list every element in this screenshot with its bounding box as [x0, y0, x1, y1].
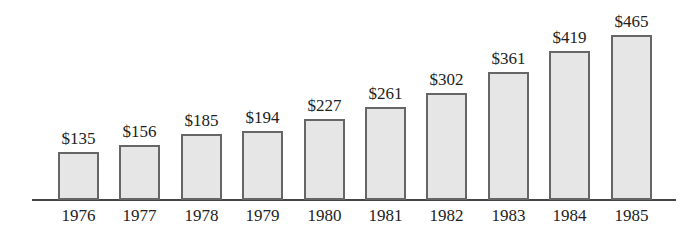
x-tick-label: 1983: [474, 206, 544, 226]
value-label: $156: [105, 122, 175, 142]
bar-1977: [119, 145, 160, 200]
value-label: $194: [228, 108, 298, 128]
x-tick-label: 1985: [597, 206, 667, 226]
x-tick-label: 1978: [167, 206, 237, 226]
bar-1979: [242, 131, 283, 200]
bar-1985: [611, 35, 652, 200]
x-tick-label: 1979: [228, 206, 298, 226]
value-label: $185: [167, 111, 237, 131]
x-tick-label: 1980: [290, 206, 360, 226]
x-tick-label: 1977: [105, 206, 175, 226]
x-tick-label: 1981: [351, 206, 421, 226]
x-tick-label: 1982: [412, 206, 482, 226]
bar-1976: [58, 152, 99, 200]
value-label: $465: [597, 12, 667, 32]
bar-chart: $1351976$1561977$1851978$1941979$2271980…: [0, 0, 696, 239]
bar-1980: [304, 119, 345, 200]
value-label: $227: [290, 96, 360, 116]
value-label: $261: [351, 84, 421, 104]
value-label: $302: [412, 70, 482, 90]
value-label: $361: [474, 49, 544, 69]
bar-1981: [365, 107, 406, 200]
bar-1983: [488, 72, 529, 200]
x-tick-label: 1984: [535, 206, 605, 226]
bar-1984: [549, 51, 590, 200]
value-label: $135: [44, 129, 114, 149]
x-tick-label: 1976: [44, 206, 114, 226]
bar-1978: [181, 134, 222, 200]
bar-1982: [426, 93, 467, 200]
value-label: $419: [535, 28, 605, 48]
